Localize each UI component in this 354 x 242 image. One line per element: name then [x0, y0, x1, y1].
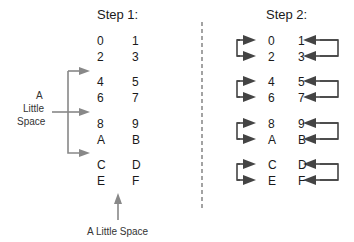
step2-cell: A	[268, 134, 276, 146]
step2-cell: 5	[298, 76, 305, 88]
side-bracket-arrows	[52, 71, 80, 153]
step2-cell: 6	[268, 92, 275, 104]
step2-cell: E	[268, 175, 276, 187]
side-label-little: Little	[23, 103, 44, 114]
step2-cell: 9	[298, 118, 305, 130]
step1-cell: 0	[97, 35, 104, 47]
side-arrowheads	[79, 67, 90, 157]
side-label-a: A	[36, 90, 43, 101]
step2-cell: C	[268, 159, 277, 171]
step1-cell: 9	[132, 118, 139, 130]
step2-cell: F	[298, 175, 305, 187]
step1-cell: 6	[97, 92, 104, 104]
step1-cell: E	[97, 175, 105, 187]
step2-cell: 7	[298, 92, 305, 104]
step1-cell: 2	[97, 51, 104, 63]
step2-cell: B	[298, 134, 306, 146]
step2-cell: 1	[298, 35, 305, 47]
step1-cell: A	[97, 134, 105, 146]
step1-cell: 8	[97, 118, 104, 130]
step2-cell: 8	[268, 118, 275, 130]
step2-cell: 0	[268, 35, 275, 47]
step1-cell: 1	[132, 35, 139, 47]
step2-arrow-shafts	[237, 40, 338, 180]
bottom-label: A Little Space	[87, 226, 148, 237]
step2-loops	[237, 40, 338, 180]
step1-cell: D	[132, 159, 141, 171]
step1-cell: F	[132, 175, 139, 187]
step1-cell: 3	[132, 51, 139, 63]
step2-cell: 3	[298, 51, 305, 63]
side-label-space: Space	[17, 116, 45, 127]
step1-title: Step 1:	[97, 9, 138, 21]
step1-cell: B	[132, 134, 140, 146]
step1-cell: 4	[97, 76, 104, 88]
step1-cell: 5	[132, 76, 139, 88]
step2-title: Step 2:	[266, 9, 307, 21]
bottom-up-arrow	[114, 193, 122, 220]
step2-cell: D	[298, 159, 307, 171]
step1-cell: C	[97, 159, 106, 171]
step1-cell: 7	[132, 92, 139, 104]
step2-cell: 2	[268, 51, 275, 63]
step2-cell: 4	[268, 76, 275, 88]
